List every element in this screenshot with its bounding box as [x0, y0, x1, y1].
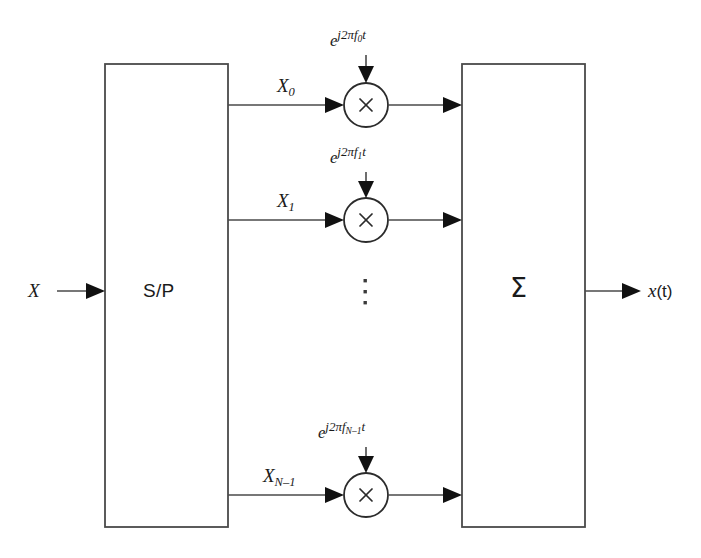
- branch-2-signal-base: X: [263, 465, 275, 486]
- branch-1-carrier-exponent: j2πf1t: [337, 144, 366, 159]
- branch-1-signal-base: X: [277, 190, 289, 211]
- branch-2-carrier-label: ej2πfN–1t: [318, 420, 365, 442]
- vertical-ellipsis-icon: [364, 279, 367, 304]
- branch-1-signal-label: X1: [277, 191, 295, 213]
- branch-0-input-arrowhead-icon: [325, 97, 344, 113]
- branch-2-output-arrowhead-icon: [443, 487, 462, 503]
- output-label-arg: (t): [656, 282, 672, 301]
- branch-1-carrier-arrowhead-icon: [358, 181, 374, 198]
- diagram-canvas: [0, 0, 701, 558]
- branch-1-carrier-label: ej2πf1t: [330, 145, 366, 167]
- serial-to-parallel-label: S/P: [143, 281, 175, 300]
- branch-1-output-arrowhead-icon: [443, 212, 462, 228]
- branch-1-signal-sub: 1: [289, 200, 295, 214]
- branch-2-signal-sub: N–1: [275, 475, 296, 489]
- branch-0-signal-label: X0: [277, 76, 295, 98]
- branch-2-signal-label: XN–1: [263, 466, 295, 488]
- block-diagram-figure: X S/P Σ x(t) X0 X1 XN–1 ej2πf0t ej2πf1t …: [0, 0, 701, 558]
- input-arrowhead-icon: [86, 283, 105, 299]
- branch-0-signal-base: X: [277, 75, 289, 96]
- branch-2-carrier-exp-sub: N–1: [346, 426, 362, 436]
- branch-2-carrier-exponent: j2πfN–1t: [325, 419, 365, 434]
- branch-0-output-arrowhead-icon: [443, 97, 462, 113]
- branch-0-carrier-exp-suffix: t: [362, 27, 366, 42]
- branch-1-input-arrowhead-icon: [325, 212, 344, 228]
- branch-0-carrier-label: ej2πf0t: [330, 28, 366, 50]
- input-label: X: [28, 281, 40, 300]
- branch-2-carrier-exp-suffix: t: [361, 419, 365, 434]
- branch-0-signal-sub: 0: [289, 85, 295, 99]
- branch-0-carrier-arrowhead-icon: [358, 66, 374, 83]
- branch-1-carrier-exp-suffix: t: [362, 144, 366, 159]
- branch-0-carrier-exp-prefix: j2πf: [337, 27, 357, 42]
- output-label: x(t): [648, 281, 672, 300]
- branch-1-carrier-exp-prefix: j2πf: [337, 144, 357, 159]
- branch-2-carrier-arrowhead-icon: [358, 456, 374, 473]
- summer-label: Σ: [510, 274, 527, 301]
- output-arrowhead-icon: [622, 283, 641, 299]
- branch-2-input-arrowhead-icon: [325, 487, 344, 503]
- branch-2-carrier-exp-prefix: j2πf: [325, 419, 345, 434]
- branch-0-carrier-exponent: j2πf0t: [337, 27, 366, 42]
